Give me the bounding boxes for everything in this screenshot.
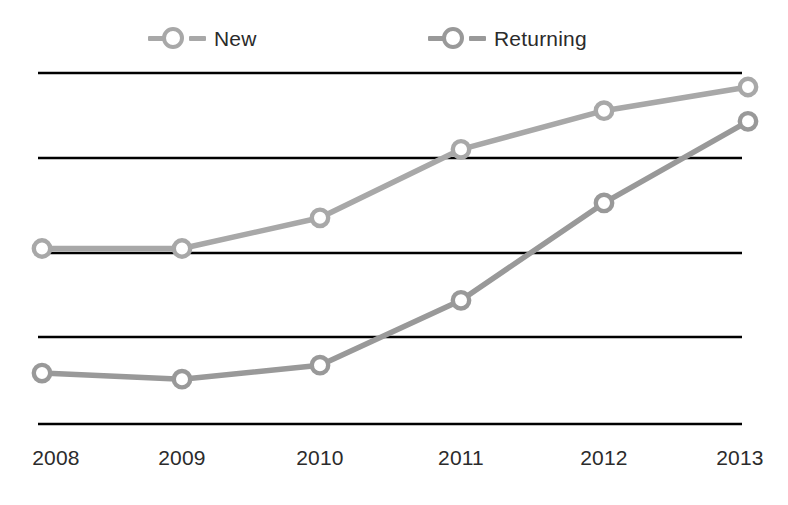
data-point-marker[interactable] (312, 357, 328, 373)
x-tick-label: 2012 (580, 446, 628, 469)
x-tick-label: 2013 (716, 446, 764, 469)
data-point-marker[interactable] (740, 79, 756, 95)
line-chart: New Returning 200820092010201120122013 (0, 0, 788, 505)
data-point-marker[interactable] (453, 292, 469, 308)
data-point-marker[interactable] (312, 210, 328, 226)
x-tick-label: 2008 (32, 446, 80, 469)
x-axis-tick-labels: 200820092010201120122013 (0, 446, 788, 480)
x-tick-label: 2011 (438, 446, 484, 469)
series-lines-group (42, 87, 748, 379)
x-tick-label: 2010 (296, 446, 344, 469)
data-point-marker[interactable] (174, 371, 190, 387)
plot-area (0, 0, 788, 505)
data-point-marker[interactable] (596, 103, 612, 119)
data-point-marker[interactable] (34, 240, 50, 256)
series-markers-group (34, 79, 756, 388)
data-point-marker[interactable] (174, 240, 190, 256)
plot-svg (0, 0, 788, 505)
series-line-new (42, 87, 748, 249)
x-tick-label: 2009 (158, 446, 206, 469)
data-point-marker[interactable] (34, 365, 50, 381)
data-point-marker[interactable] (740, 113, 756, 129)
data-point-marker[interactable] (453, 141, 469, 157)
data-point-marker[interactable] (596, 195, 612, 211)
